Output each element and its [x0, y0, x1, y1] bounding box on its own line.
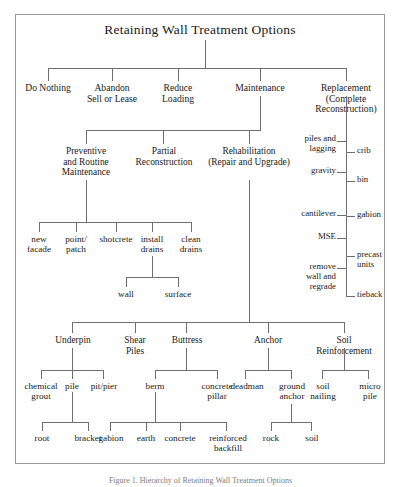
connector-deadman	[245, 370, 246, 379]
connector-anchor	[268, 322, 269, 333]
node-gabion-wall: gabion	[357, 210, 401, 220]
node-underpin: Underpin	[42, 335, 104, 346]
node-crib: crib	[357, 146, 401, 156]
connector-underpin	[72, 322, 73, 333]
connector-bracket	[88, 422, 89, 431]
connector-concrete-pillar	[217, 370, 218, 379]
retaining-wall-treatment-diagram: Retaining Wall Treatment Options Do Noth…	[0, 0, 401, 487]
node-maintenance: Maintenance	[220, 83, 300, 94]
connector-micro-pile	[368, 370, 369, 379]
connector-maintenance-bus	[86, 130, 261, 131]
connector-reinforced-backfill	[226, 422, 227, 431]
connector-clean-drains	[191, 222, 192, 232]
tick-bin	[346, 181, 355, 182]
connector-rehabilitation-stem	[249, 180, 250, 322]
connector-install-drains	[152, 222, 153, 232]
tick-gabion	[346, 216, 355, 217]
connector-maintenance	[260, 68, 261, 81]
connector-anchor-bus	[245, 370, 291, 371]
node-wall: wall	[104, 289, 148, 299]
connector-pile-stem	[72, 392, 73, 422]
tick-tieback	[346, 296, 355, 297]
connector-rock	[271, 422, 272, 431]
connector-earth	[146, 422, 147, 431]
connector-replacement-spine	[346, 132, 347, 297]
connector-underpin-stem	[72, 348, 73, 370]
node-pit-pier: pit/pier	[83, 381, 125, 391]
node-rock: rock	[253, 433, 289, 443]
connector-ground-anchor-stem	[291, 404, 292, 422]
tick-gravity	[337, 172, 346, 173]
node-micro-pile: micro pile	[348, 381, 392, 402]
connector-berm-bus	[110, 422, 226, 423]
node-gravity: gravity	[284, 166, 336, 176]
connector-root	[42, 422, 43, 431]
node-buttress: Buttress	[158, 335, 216, 346]
connector-buttress	[186, 322, 187, 333]
connector-soil-nailing	[322, 370, 323, 379]
connector-replacement	[346, 68, 347, 81]
node-surface: surface	[154, 289, 202, 299]
node-reduce-loading: Reduce Loading	[138, 83, 218, 104]
node-bin: bin	[357, 175, 401, 185]
connector-preventive	[86, 130, 87, 144]
tick-precast-units	[346, 256, 355, 257]
connector-chemical-grout	[41, 370, 42, 379]
connector-rehabilitation	[249, 130, 250, 144]
connector-point-patch	[76, 222, 77, 232]
node-piles-and-lagging: piles and lagging	[284, 134, 336, 154]
connector-new-facade	[39, 222, 40, 232]
node-reinforced-backfill: reinforced backfill	[200, 433, 256, 454]
connector-preventive-bus	[39, 222, 191, 223]
tick-piles-and-lagging	[337, 141, 346, 142]
node-soil: soil	[296, 433, 328, 443]
node-partial-reconstruction: Partial Reconstruction	[124, 146, 204, 167]
connector-berm-stem	[155, 392, 156, 422]
node-deadman: deadman	[222, 381, 272, 391]
connector-wall	[126, 277, 127, 287]
connector-pile	[72, 370, 73, 379]
connector-preventive-stem	[86, 180, 87, 222]
connector-soil-reinforcement	[344, 322, 345, 333]
connector-abandon	[112, 68, 113, 81]
connector-soil	[311, 422, 312, 431]
connector-ground-anchor	[291, 370, 292, 379]
figure-caption: Figure 1. Hierarchy of Retaining Wall Tr…	[0, 476, 401, 485]
tick-cantilever	[337, 215, 346, 216]
connector-pile-bus	[42, 422, 88, 423]
connector-soil-reinforcement-stem	[344, 348, 345, 370]
connector-title-stem	[205, 40, 206, 68]
node-tieback: tieback	[357, 290, 401, 300]
node-root: root	[22, 433, 62, 443]
diagram-title: Retaining Wall Treatment Options	[80, 22, 320, 37]
connector-soil-reinforcement-bus	[322, 370, 368, 371]
node-shear-piles: Shear Piles	[108, 335, 162, 356]
connector-gabion	[110, 422, 111, 431]
connector-install-drains-stem	[152, 256, 153, 277]
connector-level1-bus	[48, 68, 346, 69]
connector-pit-pier	[103, 370, 104, 379]
connector-surface	[178, 277, 179, 287]
tick-remove-wall-regrade	[337, 268, 346, 269]
tick-crib	[346, 152, 355, 153]
connector-ground-anchor-bus	[271, 422, 311, 423]
connector-replacement-stem	[346, 96, 347, 132]
connector-reduce	[178, 68, 179, 81]
node-clean-drains: clean drains	[165, 234, 217, 255]
node-precast-units: precast units	[357, 250, 401, 270]
connector-berm	[155, 370, 156, 379]
connector-anchor-stem	[268, 348, 269, 370]
connector-partial	[163, 130, 164, 144]
connector-buttress-stem	[186, 348, 187, 370]
node-remove-wall-regrade: remove wall and regrade	[284, 262, 336, 292]
connector-concrete	[180, 422, 181, 431]
connector-maintenance-stem	[260, 96, 261, 130]
node-soil-nailing: soil nailing	[300, 381, 346, 402]
connector-shear-piles	[135, 322, 136, 333]
node-anchor: Anchor	[240, 335, 296, 346]
connector-drains-bus	[126, 277, 178, 278]
node-concrete: concrete	[155, 433, 205, 443]
tick-mse	[337, 238, 346, 239]
connector-do-nothing	[48, 68, 49, 81]
connector-rehabilitation-bus	[72, 322, 344, 323]
